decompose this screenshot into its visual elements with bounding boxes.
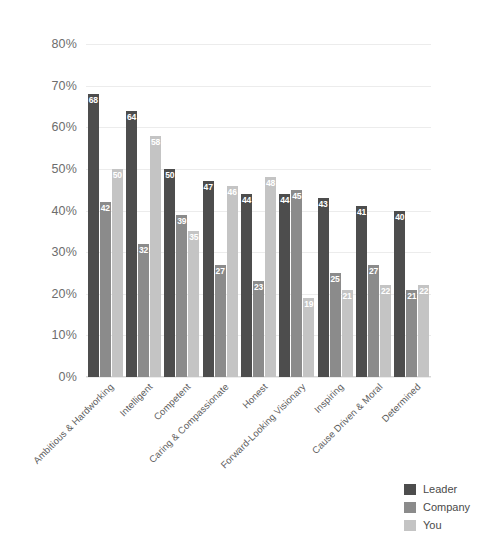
- bar[interactable]: 43: [318, 198, 329, 377]
- bar-value-label: 64: [126, 113, 137, 122]
- bar-slot: 22: [380, 44, 391, 377]
- bar[interactable]: 35: [188, 231, 199, 377]
- bar-slot: 50: [112, 44, 123, 377]
- bar[interactable]: 68: [88, 94, 99, 377]
- bar-value-label: 50: [112, 171, 123, 180]
- bar-value-label: 48: [265, 179, 276, 188]
- bar-group: 402122: [393, 44, 431, 377]
- y-axis-tick-label: 80%: [51, 37, 77, 51]
- legend-item[interactable]: Leader: [404, 481, 470, 497]
- bar-slot: 58: [150, 44, 161, 377]
- y-axis-tick-label: 30%: [51, 245, 77, 259]
- bar-value-label: 25: [330, 275, 341, 284]
- bar[interactable]: 47: [203, 181, 214, 377]
- bar[interactable]: 41: [356, 206, 367, 377]
- bar[interactable]: 32: [138, 244, 149, 377]
- legend-item[interactable]: Company: [404, 499, 470, 515]
- legend-label: Company: [423, 501, 470, 513]
- bar[interactable]: 50: [112, 169, 123, 377]
- bar-value-label: 43: [318, 200, 329, 209]
- bar[interactable]: 44: [279, 194, 290, 377]
- bar-value-label: 68: [88, 96, 99, 105]
- bar-slot: 22: [418, 44, 429, 377]
- bar-value-label: 39: [176, 217, 187, 226]
- bar-slot: 35: [188, 44, 199, 377]
- bar-value-label: 27: [368, 267, 379, 276]
- bar-groups: 6842506432585039354727464423484445194325…: [86, 44, 431, 377]
- bar-group: 503935: [163, 44, 201, 377]
- bar-slot: 27: [215, 44, 226, 377]
- bar-value-label: 45: [291, 192, 302, 201]
- y-axis-tick-label: 50%: [51, 162, 77, 176]
- bar-slot: 44: [279, 44, 290, 377]
- bar-slot: 46: [227, 44, 238, 377]
- bar-slot: 47: [203, 44, 214, 377]
- bar-slot: 50: [164, 44, 175, 377]
- legend-swatch-icon: [404, 484, 416, 495]
- bar-slot: 43: [318, 44, 329, 377]
- bar[interactable]: 21: [406, 290, 417, 377]
- x-axis-label: Ambitious & Hardworking: [28, 381, 113, 466]
- bar-group: 472746: [201, 44, 239, 377]
- bar-slot: 21: [342, 44, 353, 377]
- bar-value-label: 21: [406, 292, 417, 301]
- bar[interactable]: 21: [342, 290, 353, 377]
- bar-value-label: 58: [150, 138, 161, 147]
- legend-item[interactable]: You: [404, 517, 470, 533]
- plot-area: 0%10%20%30%40%50%60%70%80% 6842506432585…: [86, 44, 431, 377]
- bar[interactable]: 22: [418, 285, 429, 377]
- y-axis-tick-label: 60%: [51, 120, 77, 134]
- y-axis-tick-label: 20%: [51, 287, 77, 301]
- bar-group: 432521: [316, 44, 354, 377]
- bar[interactable]: 50: [164, 169, 175, 377]
- bar-slot: 42: [100, 44, 111, 377]
- bar-slot: 41: [356, 44, 367, 377]
- bar[interactable]: 23: [253, 281, 264, 377]
- bar[interactable]: 46: [227, 186, 238, 377]
- bar[interactable]: 44: [241, 194, 252, 377]
- y-axis-tick-label: 0%: [59, 370, 77, 384]
- bar-slot: 27: [368, 44, 379, 377]
- chart-legend: LeaderCompanyYou: [404, 481, 470, 535]
- bar[interactable]: 27: [368, 265, 379, 377]
- bar-slot: 25: [330, 44, 341, 377]
- bar-slot: 23: [253, 44, 264, 377]
- bar-value-label: 22: [380, 287, 391, 296]
- bar-slot: 48: [265, 44, 276, 377]
- bar-group: 643258: [124, 44, 162, 377]
- bar[interactable]: 39: [176, 215, 187, 377]
- gridline: [86, 377, 431, 378]
- y-axis-tick-label: 70%: [51, 79, 77, 93]
- bar-value-label: 44: [241, 196, 252, 205]
- x-axis-label: Honest: [237, 381, 266, 410]
- bar[interactable]: 45: [291, 190, 302, 377]
- bar[interactable]: 64: [126, 111, 137, 377]
- bar[interactable]: 40: [394, 211, 405, 378]
- bar[interactable]: 19: [303, 298, 314, 377]
- x-axis-label: Inspiring: [309, 381, 343, 415]
- bar[interactable]: 48: [265, 177, 276, 377]
- x-axis-label: Cause Driven & Moral: [306, 381, 381, 456]
- bar[interactable]: 22: [380, 285, 391, 377]
- bar-slot: 32: [138, 44, 149, 377]
- bar-value-label: 50: [164, 171, 175, 180]
- bar-value-label: 22: [418, 287, 429, 296]
- bar-value-label: 32: [138, 246, 149, 255]
- bar-group: 442348: [239, 44, 277, 377]
- bar-slot: 68: [88, 44, 99, 377]
- bar-value-label: 21: [342, 292, 353, 301]
- bar-value-label: 42: [100, 204, 111, 213]
- bar[interactable]: 58: [150, 136, 161, 377]
- bar-slot: 39: [176, 44, 187, 377]
- bar[interactable]: 42: [100, 202, 111, 377]
- bar-slot: 19: [303, 44, 314, 377]
- bar-value-label: 41: [356, 208, 367, 217]
- legend-label: You: [423, 519, 442, 531]
- legend-swatch-icon: [404, 502, 416, 513]
- bar[interactable]: 27: [215, 265, 226, 377]
- bar[interactable]: 25: [330, 273, 341, 377]
- legend-swatch-icon: [404, 520, 416, 531]
- bar-slot: 45: [291, 44, 302, 377]
- grouped-bar-chart: 0%10%20%30%40%50%60%70%80% 6842506432585…: [0, 0, 496, 560]
- y-axis-tick-label: 10%: [51, 328, 77, 342]
